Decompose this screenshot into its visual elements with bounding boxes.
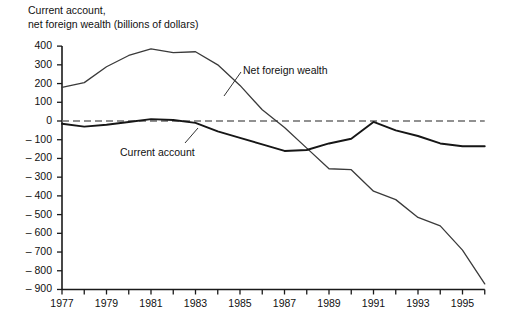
- y-axis-tick-label: – 900: [0, 282, 52, 294]
- x-axis-tick-label: 1995: [443, 297, 483, 309]
- series-label-current-account: Current account: [120, 146, 195, 158]
- chart-plot-area: [0, 0, 515, 321]
- chart-axis-title-line1: Current account,: [28, 4, 106, 16]
- y-axis-tick-label: – 300: [0, 170, 52, 182]
- y-axis-tick-label: – 400: [0, 189, 52, 201]
- x-axis-tick-label: 1991: [354, 297, 394, 309]
- y-axis-tick-label: – 200: [0, 151, 52, 163]
- y-axis-tick-label: 400: [0, 39, 52, 51]
- y-axis-tick-label: – 600: [0, 226, 52, 238]
- y-axis-tick-label: 0: [0, 114, 52, 126]
- x-axis-tick-label: 1979: [87, 297, 127, 309]
- x-axis-tick-label: 1989: [309, 297, 349, 309]
- y-axis-tick-label: – 100: [0, 133, 52, 145]
- x-axis-tick-label: 1985: [220, 297, 260, 309]
- current-account-leader-line: [185, 128, 198, 143]
- x-axis-tick-label: 1977: [42, 297, 82, 309]
- series-label-net-foreign-wealth: Net foreign wealth: [243, 64, 328, 76]
- x-axis-tick-label: 1987: [265, 297, 305, 309]
- chart-figure: Current account,net foreign wealth (bill…: [0, 0, 515, 321]
- chart-axis-title: Current account,net foreign wealth (bill…: [28, 3, 198, 31]
- x-axis-tick-label: 1981: [131, 297, 171, 309]
- y-axis-tick-label: – 800: [0, 264, 52, 276]
- series-line-net-foreign-wealth: [62, 49, 485, 284]
- x-axis-tick-label: 1983: [176, 297, 216, 309]
- y-axis-tick-label: – 700: [0, 245, 52, 257]
- y-axis-tick-label: 100: [0, 95, 52, 107]
- x-axis-tick-label: 1993: [398, 297, 438, 309]
- y-axis-tick-label: 200: [0, 77, 52, 89]
- y-axis-tick-label: – 500: [0, 208, 52, 220]
- y-axis-tick-label: 300: [0, 58, 52, 70]
- chart-axis-title-line2: net foreign wealth (billions of dollars): [28, 18, 198, 30]
